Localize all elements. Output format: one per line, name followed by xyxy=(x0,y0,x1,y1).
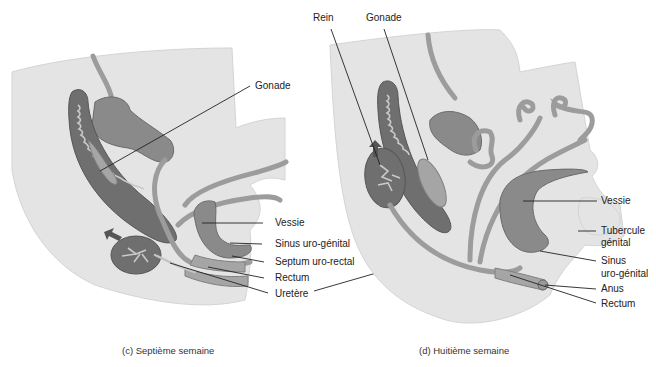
label-d-sinus-1: Sinus xyxy=(601,255,626,266)
label-d-vessie: Vessie xyxy=(601,195,631,206)
label-d-gonade: Gonade xyxy=(366,12,402,23)
label-d-anus: Anus xyxy=(601,283,624,294)
label-d-rectum: Rectum xyxy=(601,298,635,309)
label-c-septum: Septum uro-rectal xyxy=(275,256,354,267)
caption-c: (c) Septième semaine xyxy=(122,345,214,356)
caption-d: (d) Huitième semaine xyxy=(419,345,509,356)
panel-c xyxy=(12,48,286,305)
label-c-rectum: Rectum xyxy=(275,272,309,283)
label-c-vessie: Vessie xyxy=(275,217,305,228)
panel-d xyxy=(330,30,624,323)
embryo-diagram: Gonade Vessie Sinus uro-génital Septum u… xyxy=(0,0,656,367)
label-c-gonade: Gonade xyxy=(255,80,291,91)
label-d-rein: Rein xyxy=(313,12,334,23)
label-d-tubercule-1: Tubercule xyxy=(601,225,646,236)
label-c-sinus: Sinus uro-génital xyxy=(275,238,350,249)
label-d-sinus-2: uro-génital xyxy=(601,268,648,279)
panel-c-kidney xyxy=(111,236,161,274)
label-d-tubercule-2: génital xyxy=(601,237,630,248)
label-c-uretere: Uretère xyxy=(275,288,309,299)
